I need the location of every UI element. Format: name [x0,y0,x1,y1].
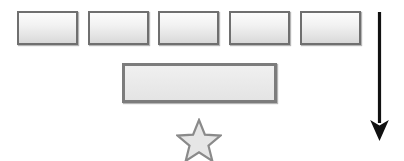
down-arrow [368,10,392,144]
star-shape[interactable] [176,118,222,161]
star-icon [176,118,222,161]
wide-bar[interactable] [122,63,277,103]
node-box-5[interactable] [300,11,361,45]
diagram-canvas [0,0,404,161]
node-box-3[interactable] [158,11,219,45]
node-box-2[interactable] [88,11,149,45]
arrow-down-icon [368,10,392,144]
node-box-1[interactable] [17,11,78,45]
node-box-4[interactable] [229,11,290,45]
